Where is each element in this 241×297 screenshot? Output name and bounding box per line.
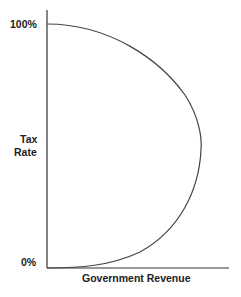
x-axis-label: Government Revenue — [82, 272, 191, 284]
y-tick-100-percent: 100% — [10, 18, 37, 30]
y-axis-label-rate: Rate — [14, 146, 37, 158]
y-tick-0-percent: 0% — [21, 256, 36, 268]
laffer-curve — [47, 24, 201, 268]
y-axis-label-tax: Tax — [20, 133, 37, 145]
